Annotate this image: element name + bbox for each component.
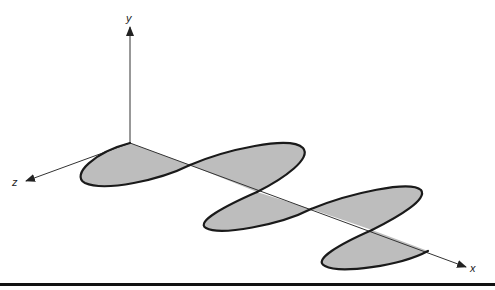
wave-lobe-5 [322, 230, 428, 269]
x-axis-label: x [469, 262, 476, 274]
wave-lobes [81, 143, 428, 269]
wave-lobe-2 [190, 143, 305, 192]
wave-lobe-4 [311, 186, 422, 230]
wave-diagram: y z x [0, 0, 495, 290]
bottom-rule [0, 283, 495, 286]
y-axis-label: y [125, 12, 133, 24]
z-axis-label: z [11, 176, 18, 188]
wave-lobe-1 [81, 143, 190, 186]
